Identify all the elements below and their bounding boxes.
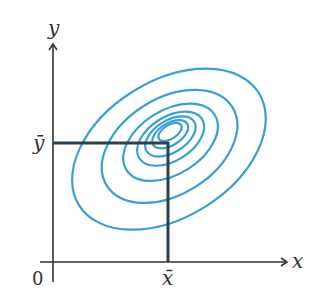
contour-ring-2 <box>147 114 193 154</box>
origin-label: 0 <box>32 268 43 289</box>
x-axis-label: x <box>292 249 303 273</box>
contour-diagram: y x 0 ȳ x̄ <box>0 0 327 305</box>
y-mean-label: ȳ <box>32 131 45 155</box>
y-axis-label: y <box>47 16 60 40</box>
contour-ring-3 <box>138 108 202 165</box>
x-mean-label: x̄ <box>162 266 173 290</box>
